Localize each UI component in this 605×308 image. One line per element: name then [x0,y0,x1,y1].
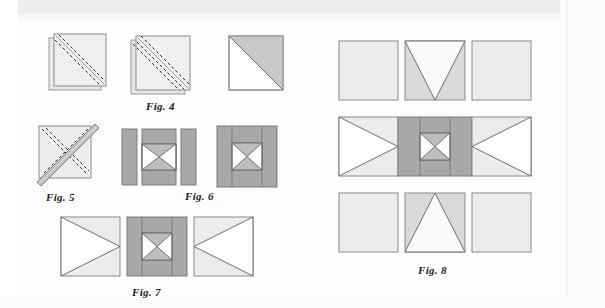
scan-right-edge-line [566,0,568,308]
fig8-middle-right-side-triangle-unit [472,117,531,176]
fig8-middle-centre-sashed-hourglass-block [398,117,472,176]
fig7-right-side-triangle-unit [194,217,253,276]
scan-bottom-margin [0,297,605,308]
fig8-top-plain-square-left [339,41,398,100]
scan-left-margin [0,0,18,308]
fig4-step3-half-square-triangle-unit [229,36,283,90]
fig6-illustration [120,126,285,188]
fig8-bottom-up-pointing-triangle-unit [405,193,465,252]
fig8-top-down-pointing-triangle-unit [405,41,465,100]
fig7-left-side-triangle-unit [61,217,120,276]
fig6-step2-assembled-sashed-centre-block [217,126,277,187]
fig4-caption: Fig. 4 [146,100,175,112]
fig7-centre-sashed-hourglass-block [127,217,187,276]
fig8-bottom-plain-square-right [472,193,531,252]
fig8-top-plain-square-right [472,41,531,100]
fig8-middle-left-side-triangle-unit [339,117,398,176]
fig5-illustration [33,122,108,192]
fig7-illustration [60,216,255,278]
fig8-illustration [338,40,538,255]
fig6-right-sashing-strip [181,129,196,185]
fig5-step1-layered-triangle-units-marked [37,124,99,186]
fig8-middle-row [339,117,531,176]
diagram-page: Fig. 4 Fig. 5 [0,0,605,308]
fig6-centre-column [142,129,176,185]
fig6-caption: Fig. 6 [185,190,214,202]
fig4-illustration [45,32,295,102]
scan-top-band-secondary [0,14,605,20]
fig4-step1-layered-squares-marked [49,34,106,90]
fig6-left-sashing-strip [122,129,137,185]
fig7-caption: Fig. 7 [132,286,161,298]
fig8-caption: Fig. 8 [418,264,447,276]
fig8-top-row [339,41,531,100]
fig8-bottom-row [339,193,531,252]
fig6-step1-exploded-sashing-and-centre [122,129,196,185]
scan-top-band [0,0,605,14]
fig8-bottom-plain-square-left [339,193,398,252]
fig4-step2-layered-squares-stitched [131,36,190,94]
fig5-caption: Fig. 5 [46,191,75,203]
